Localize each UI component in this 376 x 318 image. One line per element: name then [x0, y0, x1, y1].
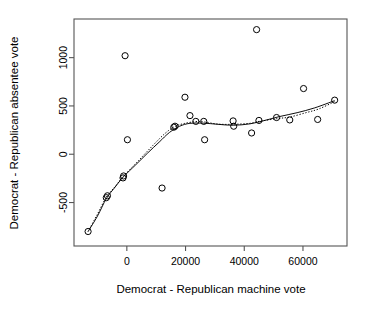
x-axis-title: Democrat - Republican machine vote	[116, 283, 305, 295]
y-axis-title: Democrat - Republican absentee vote	[8, 36, 20, 229]
y-tick-label: 0	[57, 151, 69, 157]
x-tick-label: 60000	[288, 255, 317, 267]
y-tick-label: 500	[57, 97, 69, 115]
x-tick-label: 0	[124, 255, 130, 267]
x-tick-label: 20000	[171, 255, 200, 267]
scatter-plot-figure: 0200004000060000 -50005001000 Democrat -…	[0, 0, 376, 318]
x-tick-label: 40000	[230, 255, 259, 267]
chart-canvas: 0200004000060000 -50005001000 Democrat -…	[0, 0, 376, 318]
y-tick-label: -500	[57, 192, 69, 213]
y-tick-label: 1000	[57, 46, 69, 70]
